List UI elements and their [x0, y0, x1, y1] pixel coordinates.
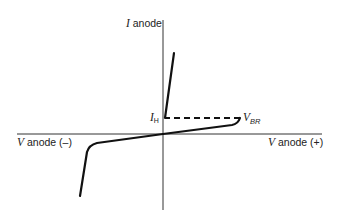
breakover-voltage-label: VBR — [243, 112, 260, 126]
x-negative-text: anode (–) — [27, 136, 72, 148]
x-positive-text: anode (+) — [278, 136, 323, 148]
breakover-voltage-subscript: BR — [250, 117, 260, 126]
on-state-curve — [165, 53, 174, 118]
reverse-curve — [80, 134, 163, 196]
holding-current-subscript: H — [154, 117, 159, 124]
forward-blocking-curve — [163, 118, 240, 134]
breakover-voltage-symbol: V — [243, 111, 250, 123]
x-negative-symbol: V — [17, 136, 24, 148]
x-positive-symbol: V — [268, 136, 275, 148]
y-axis-text: anode — [133, 17, 162, 29]
x-positive-label: V anode (+) — [268, 137, 323, 149]
characteristic-diagram — [0, 0, 342, 218]
y-axis-symbol: I — [126, 17, 130, 29]
holding-current-label: IH — [150, 112, 159, 124]
y-axis-label: I anode — [126, 18, 162, 30]
x-negative-label: V anode (–) — [17, 137, 72, 149]
